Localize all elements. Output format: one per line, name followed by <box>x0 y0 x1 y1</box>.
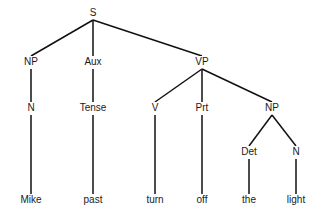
tree-node-s: S <box>89 7 98 18</box>
tree-node-past: past <box>83 194 104 205</box>
tree-node-turn: turn <box>145 194 164 205</box>
tree-edge <box>155 69 202 102</box>
tree-edge <box>31 20 93 56</box>
tree-node-vp: VP <box>194 56 209 67</box>
tree-edge <box>202 69 272 102</box>
tree-node-prt: Prt <box>195 102 210 113</box>
tree-edge <box>249 115 272 146</box>
tree-node-det: Det <box>240 146 258 157</box>
tree-node-the: the <box>241 194 257 205</box>
tree-node-v: V <box>151 102 160 113</box>
tree-node-mike: Mike <box>19 194 42 205</box>
tree-node-np1: NP <box>23 56 39 67</box>
tree-node-aux: Aux <box>83 56 102 67</box>
tree-node-tense: Tense <box>79 102 108 113</box>
tree-node-light: light <box>286 194 306 205</box>
tree-node-n2: N <box>291 146 300 157</box>
tree-node-n1: N <box>26 102 35 113</box>
tree-edge <box>93 20 202 56</box>
tree-edge <box>272 115 296 146</box>
tree-node-np2: NP <box>264 102 280 113</box>
tree-node-off: off <box>196 194 209 205</box>
